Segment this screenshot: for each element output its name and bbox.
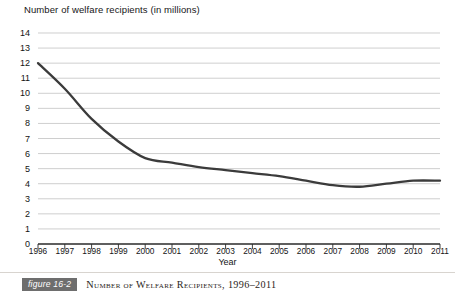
figure-number-badge: figure 16-2 xyxy=(22,278,77,292)
y-axis-tick-label: 3 xyxy=(12,194,30,204)
plot-area: 01234567891011121314 1996199719981999200… xyxy=(0,0,455,262)
y-axis-tick-label: 5 xyxy=(12,164,30,174)
y-axis-tick-label: 9 xyxy=(12,103,30,113)
y-axis-tick-label: 1 xyxy=(12,224,30,234)
figure-container: Number of welfare recipients (in million… xyxy=(0,0,455,293)
y-axis-tick-label: 13 xyxy=(12,43,30,53)
y-axis-tick-label: 4 xyxy=(12,179,30,189)
y-axis-tick-label: 8 xyxy=(12,118,30,128)
data-series-line xyxy=(38,63,440,187)
y-axis-tick-label: 6 xyxy=(12,149,30,159)
line-chart-svg xyxy=(0,0,455,262)
x-axis-tick-label: 2011 xyxy=(423,246,455,256)
x-axis-title: Year xyxy=(0,257,455,267)
y-axis-tick-label: 7 xyxy=(12,134,30,144)
figure-caption-text: Number of Welfare Recipients, 1996–2011 xyxy=(86,279,276,290)
y-axis-tick-label: 14 xyxy=(12,28,30,38)
y-axis-tick-label: 10 xyxy=(12,88,30,98)
gridlines xyxy=(38,33,440,244)
figure-caption: figure 16-2 Number of Welfare Recipients… xyxy=(0,276,455,293)
y-axis-tick-label: 2 xyxy=(12,209,30,219)
y-axis-tick-label: 12 xyxy=(12,58,30,68)
caption-divider xyxy=(0,272,455,273)
y-axis-tick-label: 11 xyxy=(12,73,30,83)
